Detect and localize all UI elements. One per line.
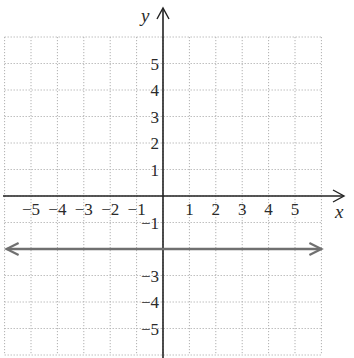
x-tick-label: 2 bbox=[212, 200, 221, 219]
x-tick-label: 3 bbox=[238, 200, 247, 219]
y-axis-label: y bbox=[139, 5, 150, 26]
y-tick-label: 1 bbox=[151, 161, 160, 180]
plot-series bbox=[7, 243, 322, 255]
x-axis-label: x bbox=[334, 201, 344, 222]
y-tick-label: 2 bbox=[151, 134, 160, 153]
x-tick-label: −2 bbox=[101, 200, 119, 219]
y-tick-label: −1 bbox=[141, 214, 159, 233]
y-tick-label: 4 bbox=[151, 81, 160, 100]
x-tick-label: 5 bbox=[291, 200, 300, 219]
x-tick-label: 4 bbox=[264, 200, 273, 219]
y-tick-label: 5 bbox=[151, 55, 160, 74]
x-tick-label: −4 bbox=[48, 200, 67, 219]
coordinate-plane: −5−4−3−2−11234554321−1−3−4−5 x y bbox=[0, 0, 354, 358]
y-tick-label: −3 bbox=[141, 267, 159, 286]
x-tick-label: 1 bbox=[185, 200, 194, 219]
y-tick-label: 3 bbox=[151, 108, 160, 127]
x-tick-label: −3 bbox=[75, 200, 93, 219]
x-tick-label: −5 bbox=[22, 200, 40, 219]
y-tick-label: −4 bbox=[141, 293, 160, 312]
y-tick-label: −5 bbox=[141, 320, 159, 339]
